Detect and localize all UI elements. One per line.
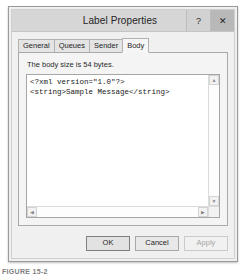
- vertical-scrollbar-track[interactable]: [209, 85, 219, 196]
- dialog-inner-frame: Label Properties ? ✕ General Queues Send…: [11, 9, 235, 259]
- ok-button[interactable]: OK: [86, 236, 130, 251]
- figure-caption: FIGURE 15-2: [2, 268, 48, 275]
- tab-body[interactable]: Body: [122, 38, 149, 53]
- tab-sender[interactable]: Sender: [89, 39, 123, 52]
- screenshot-root: Label Properties ? ✕ General Queues Send…: [0, 0, 246, 280]
- scrollbar-corner: [208, 206, 219, 217]
- dialog-button-bar: OK Cancel Apply: [12, 233, 228, 253]
- scroll-right-icon[interactable]: ▶: [198, 207, 208, 217]
- horizontal-scrollbar-track[interactable]: [37, 207, 198, 217]
- help-button[interactable]: ?: [186, 10, 210, 31]
- title-bar: Label Properties ? ✕: [12, 10, 234, 32]
- tab-page-body: The body size is 54 bytes. <?xml version…: [18, 53, 228, 226]
- caption-button-group: ? ✕: [186, 10, 234, 31]
- scroll-left-icon[interactable]: ◀: [27, 207, 37, 217]
- tab-queues[interactable]: Queues: [54, 39, 90, 52]
- dialog-body: General Queues Sender Body The body size…: [12, 32, 234, 258]
- body-text-content[interactable]: <?xml version="1.0"?> <string>Sample Mes…: [27, 75, 208, 206]
- horizontal-scrollbar[interactable]: ◀ ▶: [27, 206, 208, 217]
- scroll-down-icon[interactable]: ▼: [209, 196, 219, 206]
- body-text-editor[interactable]: <?xml version="1.0"?> <string>Sample Mes…: [26, 74, 220, 218]
- apply-button: Apply: [184, 236, 228, 251]
- cancel-button[interactable]: Cancel: [135, 236, 179, 251]
- vertical-scrollbar[interactable]: ▲ ▼: [208, 75, 219, 206]
- tab-strip: General Queues Sender Body: [18, 38, 228, 53]
- close-icon[interactable]: ✕: [210, 10, 234, 31]
- tab-general[interactable]: General: [18, 39, 55, 52]
- body-size-label: The body size is 54 bytes.: [27, 60, 220, 69]
- label-properties-dialog: Label Properties ? ✕ General Queues Send…: [8, 6, 238, 262]
- window-title: Label Properties: [83, 15, 163, 26]
- scroll-up-icon[interactable]: ▲: [209, 75, 219, 85]
